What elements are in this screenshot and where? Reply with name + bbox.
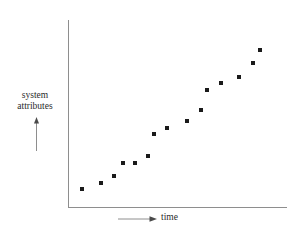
y-axis-label-line-1: system <box>6 90 64 101</box>
x-axis-direction-arrow-icon <box>118 214 158 224</box>
data-point <box>152 132 156 136</box>
y-axis-direction-arrow-icon <box>32 117 41 151</box>
scatter-chart-figure: system attributes time <box>0 0 300 233</box>
x-axis-label: time <box>161 212 178 223</box>
data-point <box>237 75 241 79</box>
data-point <box>99 181 103 185</box>
data-point <box>165 126 169 130</box>
data-point <box>251 61 255 65</box>
data-point <box>146 154 150 158</box>
data-point <box>258 48 262 52</box>
data-point <box>219 81 223 85</box>
y-axis-label-line-2: attributes <box>6 101 64 112</box>
y-axis-label: system attributes <box>6 90 64 112</box>
data-point <box>133 161 137 165</box>
data-point <box>185 119 189 123</box>
data-point <box>112 174 116 178</box>
data-point <box>199 108 203 112</box>
data-point <box>205 88 209 92</box>
data-point <box>80 187 84 191</box>
plot-area <box>0 0 300 233</box>
data-point <box>121 161 125 165</box>
